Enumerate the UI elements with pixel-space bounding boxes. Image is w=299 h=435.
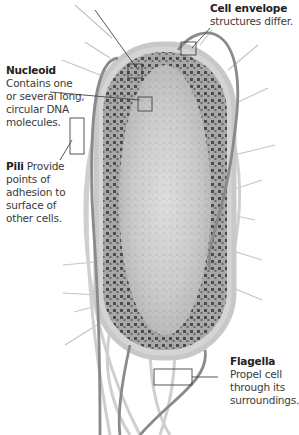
flagella-title: Flagella: [230, 355, 299, 368]
nucleoid-line-4: molecules.: [6, 116, 96, 129]
pili-line-3: surface of: [6, 199, 86, 212]
cell-envelope-label: Cell envelope structures differ.: [210, 2, 299, 28]
pili-title: Pili: [6, 160, 24, 172]
nucleoid-line-1: Contains one: [6, 77, 96, 90]
cell-envelope-title: Cell envelope: [210, 2, 299, 15]
pili-line-4: other cells.: [6, 212, 86, 225]
pili-first-line: Provide: [27, 160, 65, 172]
nucleoid-title: Nucleoid: [6, 64, 96, 77]
nucleoid-line-3: circular DNA: [6, 103, 96, 116]
pili-label: Pili Provide points of adhesion to surfa…: [6, 160, 86, 225]
nucleoid-label: Nucleoid Contains one or several long, c…: [6, 64, 96, 129]
pili-line-2: adhesion to: [6, 186, 86, 199]
flagella-label: Flagella Propel cell through its surroun…: [230, 355, 299, 407]
pili-line-1: points of: [6, 173, 86, 186]
nucleoid-line-2: or several long,: [6, 90, 96, 103]
bacterium-diagram: Cell envelope structures differ. Nucleoi…: [0, 0, 299, 435]
flagella-line-3: surroundings.: [230, 394, 299, 407]
flagella-line-1: Propel cell: [230, 368, 299, 381]
cell-envelope-text: structures differ.: [210, 15, 299, 28]
cell-body: [96, 44, 234, 358]
flagella-line-2: through its: [230, 381, 299, 394]
